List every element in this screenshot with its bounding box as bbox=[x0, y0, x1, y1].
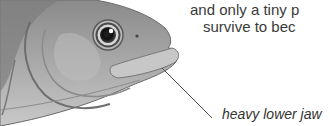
annotation-label: heavy lower jaw bbox=[222, 106, 322, 122]
fish-eye bbox=[93, 20, 123, 50]
leader-line bbox=[162, 68, 212, 118]
caption-line-2: survive to bec bbox=[203, 19, 296, 35]
caption-line-1: and only a tiny p bbox=[190, 2, 299, 18]
